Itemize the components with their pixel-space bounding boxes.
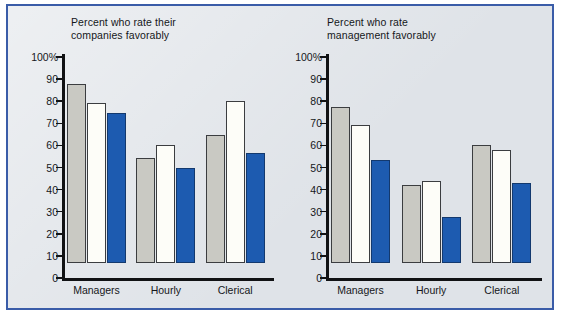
y-tick-label: 80	[16, 95, 58, 107]
y-tick-label: 100%	[16, 51, 58, 63]
bar-companies-managers-3	[107, 113, 126, 263]
y-tick-label: 100%	[280, 51, 322, 63]
bar-management-managers-1	[331, 107, 350, 263]
bar-management-clerical-3	[512, 183, 531, 263]
y-tick-label: 40	[16, 184, 58, 196]
y-tick-label: 0	[280, 272, 322, 284]
bar-companies-managers-1	[67, 84, 86, 263]
chart-figure: Percent who rate their companies favorab…	[6, 4, 554, 310]
bar-companies-managers-2	[87, 103, 106, 263]
bar-companies-clerical-3	[246, 153, 265, 264]
bar-companies-hourly-2	[156, 145, 175, 263]
y-tick-label: 20	[16, 228, 58, 240]
y-tick-label: 50	[16, 162, 58, 174]
x-axis-label: Hourly	[416, 284, 446, 296]
chart-title-companies: Percent who rate their companies favorab…	[71, 16, 176, 41]
y-tick-label: 60	[280, 139, 322, 151]
y-tick-label: 30	[280, 206, 322, 218]
y-tick-label: 30	[16, 206, 58, 218]
y-tick-label: 70	[280, 117, 322, 129]
y-tick-label: 70	[16, 117, 58, 129]
x-axis-label: Clerical	[484, 284, 519, 296]
bar-management-managers-2	[351, 125, 370, 263]
y-tick-label: 0	[16, 272, 58, 284]
x-axis-label: Managers	[73, 284, 120, 296]
bar-management-hourly-2	[422, 181, 441, 263]
chart-panel-management: Percent who rate management favorably 10…	[282, 6, 552, 308]
y-tick-label: 90	[16, 73, 58, 85]
bars-companies	[65, 42, 273, 263]
x-axis-line-management	[326, 278, 542, 281]
bar-management-clerical-2	[492, 150, 511, 263]
bar-management-clerical-1	[472, 145, 491, 263]
y-tick-label: 10	[16, 250, 58, 262]
bar-management-managers-3	[371, 160, 390, 263]
y-tick-label: 10	[280, 250, 322, 262]
x-axis-line-companies	[62, 278, 274, 281]
bars-management	[329, 42, 541, 263]
x-axis-label: Managers	[337, 284, 384, 296]
chart-panel-companies: Percent who rate their companies favorab…	[8, 6, 282, 308]
y-tick-label: 40	[280, 184, 322, 196]
y-tick-label: 90	[280, 73, 322, 85]
y-tick-label: 50	[280, 162, 322, 174]
bar-companies-hourly-3	[176, 168, 195, 263]
y-tick-label: 80	[280, 95, 322, 107]
bar-companies-clerical-2	[226, 101, 245, 263]
x-axis-label: Hourly	[151, 284, 181, 296]
bar-management-hourly-1	[402, 185, 421, 263]
bar-companies-clerical-1	[206, 135, 225, 263]
bar-management-hourly-3	[442, 217, 461, 263]
bar-companies-hourly-1	[136, 158, 155, 263]
y-tick-label: 20	[280, 228, 322, 240]
chart-title-management: Percent who rate management favorably	[327, 16, 436, 41]
x-axis-label: Clerical	[218, 284, 253, 296]
y-tick-label: 60	[16, 139, 58, 151]
